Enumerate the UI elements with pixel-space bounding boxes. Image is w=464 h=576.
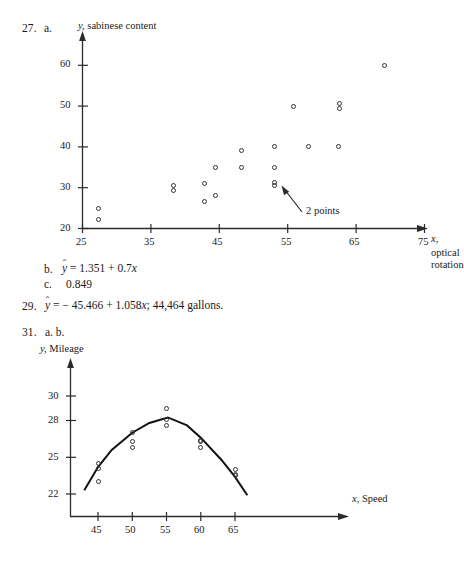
chart2-point-11: [198, 445, 203, 450]
chart2-point-2: [96, 479, 101, 484]
chart2-point-8: [164, 423, 169, 428]
chart2-point-4: [130, 439, 135, 444]
chart2-point-14: [233, 473, 238, 478]
chart2-point-3: [130, 430, 135, 435]
chart2-point-7: [164, 417, 169, 422]
chart2-point-6: [164, 406, 169, 411]
chart2-point-1: [96, 466, 101, 471]
chart2-point-10: [198, 439, 203, 444]
chart2-point-5: [130, 445, 135, 450]
